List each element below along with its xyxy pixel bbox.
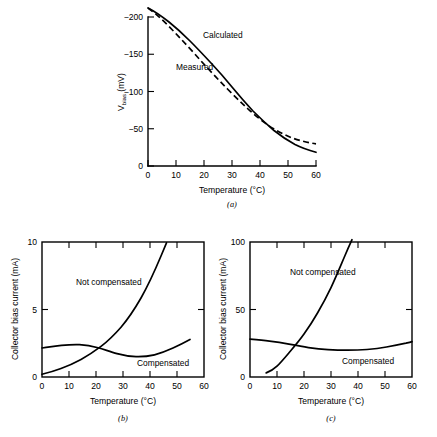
svg-text:Collector bias current (mA): Collector bias current (mA) bbox=[218, 258, 228, 360]
panel-c-label-compensated: Compensated bbox=[342, 356, 394, 366]
panel-b-xtick-40: 40 bbox=[145, 381, 155, 391]
panel-a-ytick-50: −50 bbox=[128, 124, 143, 134]
panel-a-curve-measured bbox=[148, 8, 316, 144]
panel-b: 10 5 0 0 10 20 30 40 50 60 Temperature (… bbox=[10, 237, 209, 423]
panel-a-xtick-0: 0 bbox=[146, 170, 151, 180]
panel-a-xtick-40: 40 bbox=[255, 170, 265, 180]
panel-a: 0 −50 −100 −150 −200 0 10 20 30 40 50 60… bbox=[116, 8, 321, 209]
panel-c-xtick-20: 20 bbox=[299, 381, 309, 391]
panel-b-xtick-60: 60 bbox=[199, 381, 209, 391]
panel-b-xtick-10: 10 bbox=[64, 381, 74, 391]
panel-c-xtick-50: 50 bbox=[380, 381, 390, 391]
panel-a-x-axis-title: Temperature (°C) bbox=[199, 185, 265, 195]
panel-b-label-not-compensated: Not compensated bbox=[76, 277, 142, 287]
panel-c-label-not-compensated: Not compensated bbox=[290, 267, 356, 277]
panel-c-caption: (c) bbox=[326, 414, 336, 423]
panel-b-x-axis-title: Temperature (°C) bbox=[90, 396, 156, 406]
panel-c-xtick-30: 30 bbox=[326, 381, 336, 391]
panel-a-xtick-20: 20 bbox=[199, 170, 209, 180]
panel-c-ytick-0: 0 bbox=[240, 372, 245, 382]
panel-a-x-ticks bbox=[148, 160, 316, 166]
panel-a-ytick-0: 0 bbox=[138, 161, 143, 171]
panel-b-curve-not-compensated bbox=[42, 243, 167, 374]
panel-c-y-axis-title: Collector bias current (mA) bbox=[218, 258, 228, 360]
panel-c-curve-not-compensated bbox=[266, 240, 352, 373]
svg-text:Vbias (mV): Vbias (mV) bbox=[116, 73, 127, 111]
panel-c-xtick-60: 60 bbox=[407, 381, 417, 391]
panel-b-curve-compensated bbox=[42, 340, 190, 357]
panel-a-label-calculated: Calculated bbox=[203, 30, 243, 40]
panel-a-caption: (a) bbox=[227, 200, 237, 209]
panel-c-ytick-100: 100 bbox=[231, 237, 246, 247]
panel-b-frame bbox=[42, 242, 204, 377]
panel-a-y-axis-title-unit: (mV) bbox=[116, 73, 126, 94]
figure-container: 0 −50 −100 −150 −200 0 10 20 30 40 50 60… bbox=[0, 0, 437, 437]
panel-b-label-compensated: Compensated bbox=[137, 358, 189, 368]
panel-a-y-axis-title-sub: bias bbox=[120, 94, 127, 105]
panel-a-xtick-30: 30 bbox=[227, 170, 237, 180]
panel-b-caption: (b) bbox=[118, 414, 128, 423]
panel-c-xtick-0: 0 bbox=[248, 381, 253, 391]
panel-c: 100 50 0 0 10 20 30 40 50 60 Temperature… bbox=[218, 237, 417, 423]
panel-a-xtick-10: 10 bbox=[171, 170, 181, 180]
svg-text:Collector bias current (mA): Collector bias current (mA) bbox=[10, 258, 20, 360]
panel-b-xtick-30: 30 bbox=[118, 381, 128, 391]
panel-b-xtick-0: 0 bbox=[40, 381, 45, 391]
panel-b-ytick-5: 5 bbox=[32, 305, 37, 315]
panel-b-ytick-10: 10 bbox=[27, 237, 37, 247]
panel-c-xtick-10: 10 bbox=[272, 381, 282, 391]
panel-c-xtick-40: 40 bbox=[353, 381, 363, 391]
panel-a-label-measured: Measured bbox=[176, 62, 214, 72]
panel-a-y-axis-title: Vbias (mV) bbox=[116, 73, 127, 111]
panel-b-ytick-0: 0 bbox=[32, 372, 37, 382]
panel-c-x-axis-title: Temperature (°C) bbox=[298, 396, 364, 406]
panel-a-ytick-150: −150 bbox=[124, 49, 144, 59]
panel-a-xtick-50: 50 bbox=[283, 170, 293, 180]
panel-b-xtick-50: 50 bbox=[172, 381, 182, 391]
panel-b-y-axis-title: Collector bias current (mA) bbox=[10, 258, 20, 360]
panel-a-ytick-200: −200 bbox=[124, 12, 144, 22]
panel-b-xtick-20: 20 bbox=[91, 381, 101, 391]
panel-c-ytick-50: 50 bbox=[235, 305, 245, 315]
panel-c-curve-compensated bbox=[250, 339, 412, 350]
panel-a-y-ticks bbox=[148, 17, 154, 166]
panel-a-xtick-60: 60 bbox=[311, 170, 321, 180]
figure-svg: 0 −50 −100 −150 −200 0 10 20 30 40 50 60… bbox=[0, 0, 437, 437]
